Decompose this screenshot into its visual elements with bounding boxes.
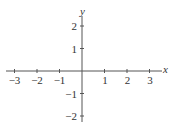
- x-tick-label: 3: [147, 74, 153, 86]
- y-tick-label: −2: [65, 110, 77, 122]
- y-tick-label: 1: [72, 43, 78, 55]
- coordinate-plane: −3 −2 −1 1 2 3 2 1 −1 −2 x y: [0, 0, 174, 126]
- x-tick-label: 2: [125, 74, 131, 86]
- y-tick-label: −1: [65, 88, 77, 100]
- x-tick-label: −1: [54, 74, 66, 86]
- x-tick-label: −2: [31, 74, 43, 86]
- y-axis-label: y: [79, 5, 85, 17]
- x-tick-label: 1: [102, 74, 108, 86]
- x-axis-label: x: [162, 63, 168, 75]
- y-tick-label: 2: [72, 20, 78, 32]
- x-tick-label: −3: [9, 74, 21, 86]
